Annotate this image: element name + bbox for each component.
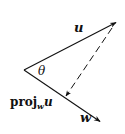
proj-text: proj: [10, 95, 37, 109]
proj-argument: u: [44, 95, 53, 109]
label-u: u: [74, 20, 83, 35]
label-projection: projwu: [10, 95, 53, 111]
label-theta: θ: [38, 64, 46, 78]
vector-u-line: [24, 23, 116, 71]
perpendicular-dashed-line: [66, 28, 112, 96]
label-w: w: [80, 110, 92, 125]
vector-projection-diagram: u θ projwu w: [0, 0, 125, 134]
